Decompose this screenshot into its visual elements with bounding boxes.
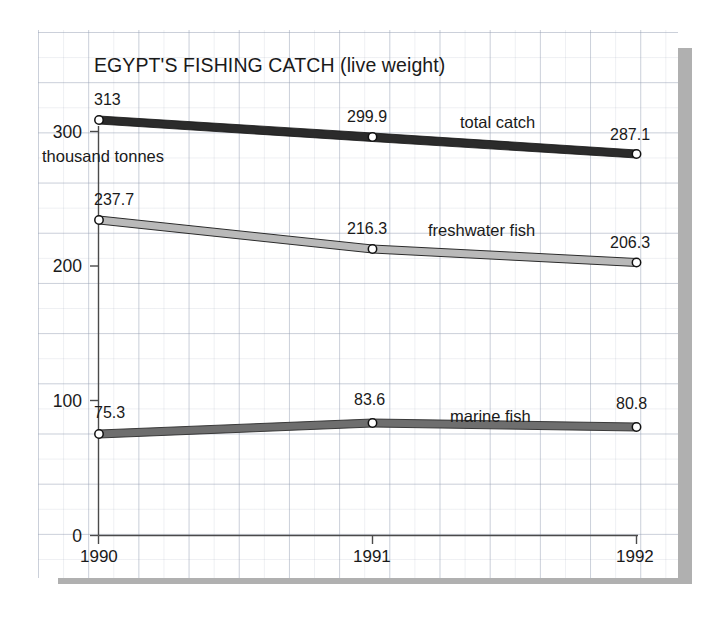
chart-figure: EGYPT'S FISHING CATCH (live weight) 300 … xyxy=(0,0,712,623)
total-catch-point-1990 xyxy=(95,116,103,124)
value-label-marine-1990: 75.3 xyxy=(94,405,125,421)
y-tick-label-200: 200 xyxy=(40,258,82,276)
y-axis-unit-label: thousand tonnes xyxy=(42,148,164,165)
value-label-marine-1991: 83.6 xyxy=(354,392,385,408)
value-label-freshwater-1990: 237.7 xyxy=(94,192,134,208)
value-label-freshwater-1991: 216.3 xyxy=(347,221,387,237)
chart-card: EGYPT'S FISHING CATCH (live weight) 300 … xyxy=(38,30,678,578)
value-label-freshwater-1992: 206.3 xyxy=(610,235,650,251)
series-marine-fish xyxy=(95,419,641,438)
freshwater-fish-point-1992 xyxy=(632,258,640,266)
marine-fish-point-1990 xyxy=(95,430,103,438)
freshwater-fish-point-1990 xyxy=(95,216,103,224)
axis-lines xyxy=(99,126,639,536)
freshwater-fish-point-1991 xyxy=(368,245,376,253)
value-label-total-1991: 299.9 xyxy=(347,109,387,125)
x-axis-ticks xyxy=(99,536,637,545)
marine-fish-point-1992 xyxy=(632,423,640,431)
x-tick-label-1992: 1992 xyxy=(616,548,654,565)
value-label-marine-1992: 80.8 xyxy=(616,396,647,412)
series-label-total-catch: total catch xyxy=(460,114,535,131)
y-tick-label-0: 0 xyxy=(40,528,82,546)
value-label-total-1992: 287.1 xyxy=(610,127,650,143)
total-catch-point-1992 xyxy=(632,150,640,158)
marine-fish-point-1991 xyxy=(368,419,376,427)
series-label-freshwater-fish: freshwater fish xyxy=(428,222,535,239)
chart-title: EGYPT'S FISHING CATCH (live weight) xyxy=(94,56,445,76)
x-tick-label-1991: 1991 xyxy=(353,548,391,565)
y-tick-label-100: 100 xyxy=(40,393,82,411)
x-tick-label-1990: 1990 xyxy=(80,548,118,565)
y-tick-label-300: 300 xyxy=(40,124,82,142)
series-label-marine-fish: marine fish xyxy=(450,408,531,425)
total-catch-point-1991 xyxy=(368,133,376,141)
value-label-total-1990: 313 xyxy=(94,92,121,108)
